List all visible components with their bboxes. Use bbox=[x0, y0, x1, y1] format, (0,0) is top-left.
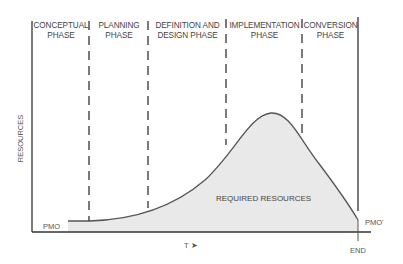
phase-title: CONVERSION bbox=[303, 21, 358, 31]
phase-subtitle: PHASE bbox=[90, 31, 148, 41]
phase-subtitle: PHASE bbox=[303, 31, 358, 41]
phase-title: DEFINITION AND bbox=[149, 21, 226, 31]
pmo-start-label: PMO bbox=[43, 222, 60, 231]
phase-label-implementation: IMPLEMENTATION PHASE bbox=[227, 21, 302, 41]
phase-subtitle: DESIGN PHASE bbox=[149, 31, 226, 41]
phase-label-conceptual: CONCEPTUAL PHASE bbox=[33, 21, 89, 41]
phase-label-conversion: CONVERSION PHASE bbox=[303, 21, 358, 41]
project-life-cycle-diagram: CONCEPTUAL PHASE PLANNING PHASE DEFINITI… bbox=[0, 0, 403, 264]
pmo-end-label: PMO' bbox=[365, 218, 384, 227]
phase-title: CONCEPTUAL bbox=[33, 21, 89, 31]
phase-label-definition-design: DEFINITION AND DESIGN PHASE bbox=[149, 21, 226, 41]
phase-label-planning: PLANNING PHASE bbox=[90, 21, 148, 41]
area-label: REQUIRED RESOURCES bbox=[216, 194, 311, 203]
end-label: END bbox=[350, 246, 366, 255]
phase-title: IMPLEMENTATION bbox=[227, 21, 302, 31]
time-axis-label: T ➤ bbox=[184, 241, 198, 250]
y-axis-label: RESOURCES bbox=[16, 114, 25, 164]
phase-subtitle: PHASE bbox=[227, 31, 302, 41]
phase-title: PLANNING bbox=[90, 21, 148, 31]
phase-subtitle: PHASE bbox=[33, 31, 89, 41]
